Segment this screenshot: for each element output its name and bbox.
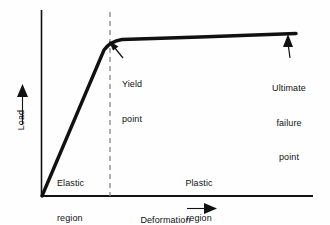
yield-point-arrow [109,41,123,58]
elastic-region-line-2: region [57,213,84,225]
elastic-region-label: Elastic region [57,155,84,224]
ultimate-failure-point-annotation: Ultimate failure point [258,60,320,187]
load-deformation-figure: Load Deformation Yield point Ultimate fa… [0,0,330,224]
elastic-region-line-1: Elastic [57,178,84,190]
yield-point-annotation: Yield point [122,56,142,148]
yield-point-line-2: point [122,114,142,126]
ultimate-failure-line-1: Ultimate [258,83,320,95]
ultimate-failure-line-3: point [258,152,320,164]
ultimate-failure-line-2: failure [258,118,320,130]
yield-point-line-1: Yield [122,79,142,91]
y-axis-title-text: Load [15,110,25,130]
plastic-region-line-1: Plastic [168,178,230,190]
plastic-region-label: Plastic region [168,155,230,224]
plastic-region-line-2: region [168,213,230,225]
ultimate-failure-point-arrow [283,34,293,58]
y-axis-title: Load [4,103,39,147]
